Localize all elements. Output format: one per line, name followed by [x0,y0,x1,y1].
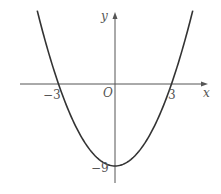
y-axis-label: y [100,9,108,23]
tick-label-neg-9: −9 [91,161,109,175]
x-axis-label: x [203,86,210,100]
tick-label-3: 3 [168,88,176,102]
tick-label-neg-3: −3 [43,88,61,102]
y-axis-arrow-icon [113,12,118,19]
origin-label: O [103,86,113,100]
parabola-chart: y x O −3 3 −9 [0,0,221,194]
